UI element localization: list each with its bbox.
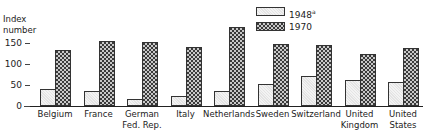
bar-1970	[186, 47, 202, 106]
bar-1970	[55, 50, 71, 106]
bar-1948	[301, 76, 317, 106]
bar-1948	[171, 96, 187, 106]
x-tick-label: Fed. Rep.	[112, 120, 172, 131]
bar-chart: Index number 050100150 BelgiumFranceGerm…	[0, 0, 427, 135]
legend-1948-text: 1948	[289, 10, 312, 20]
y-tick-label: 50	[2, 80, 22, 90]
x-tick-label: United	[373, 109, 427, 120]
bar-1970	[316, 45, 332, 106]
legend-footnote-marker: a	[312, 8, 316, 15]
bar-1948	[84, 91, 100, 106]
bar-1970	[403, 48, 419, 106]
bar-1970	[142, 42, 158, 106]
y-tick-label: 150	[2, 38, 22, 48]
legend-label-1948: 1948a	[289, 7, 316, 20]
bar-1970	[360, 54, 376, 106]
bar-1970	[99, 41, 115, 106]
bar-1948	[345, 80, 361, 106]
bar-1948	[388, 82, 404, 106]
legend-label-1970: 1970	[289, 22, 312, 32]
bar-1970	[229, 27, 245, 106]
y-axis-label-line1: Index	[3, 14, 26, 24]
x-tick-label: States	[373, 120, 427, 131]
y-axis-label-line2: number	[3, 25, 36, 35]
legend-swatch-1970	[256, 22, 285, 31]
bar-1948	[258, 84, 274, 106]
bar-1970	[273, 44, 289, 106]
bar-1948	[127, 99, 143, 106]
bar-1948	[214, 91, 230, 106]
bar-1948	[40, 89, 56, 106]
y-tick-label: 0	[2, 101, 22, 111]
y-tick-label: 100	[2, 59, 22, 69]
y-tick-mark	[25, 64, 30, 65]
y-tick-mark	[25, 43, 30, 44]
y-tick-mark	[25, 85, 30, 86]
legend-swatch-1948	[256, 7, 285, 16]
